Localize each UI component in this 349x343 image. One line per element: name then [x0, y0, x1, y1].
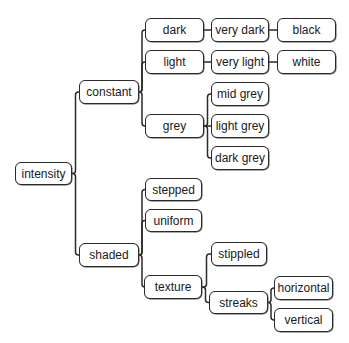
edge-grey-dark_grey	[204, 126, 211, 158]
node-vertical: vertical	[274, 308, 333, 332]
node-horizontal: horizontal	[274, 276, 333, 300]
node-light: light	[145, 50, 204, 74]
node-very-dark: very dark	[211, 18, 269, 42]
node-intensity: intensity	[15, 162, 72, 185]
node-dark: dark	[145, 18, 204, 42]
edge-intensity-constant	[72, 92, 79, 174]
node-white: white	[277, 50, 336, 74]
edge-intensity-shaded	[72, 174, 79, 256]
node-grey: grey	[145, 114, 204, 138]
node-uniform: uniform	[145, 209, 202, 232]
node-constant: constant	[79, 80, 139, 104]
node-black: black	[277, 18, 336, 42]
edge-grey-mid_grey	[204, 94, 211, 126]
node-very-light: very light	[211, 50, 269, 74]
edge-texture-stippled	[202, 254, 211, 287]
node-mid-grey: mid grey	[211, 82, 269, 106]
node-stippled: stippled	[211, 242, 267, 266]
node-dark-grey: dark grey	[211, 146, 269, 170]
node-light-grey: light grey	[211, 114, 269, 138]
node-shaded: shaded	[79, 243, 139, 267]
node-texture: texture	[144, 275, 202, 299]
edge-texture-streaks	[202, 287, 209, 303]
node-stepped: stepped	[145, 178, 202, 201]
node-streaks: streaks	[209, 291, 268, 314]
